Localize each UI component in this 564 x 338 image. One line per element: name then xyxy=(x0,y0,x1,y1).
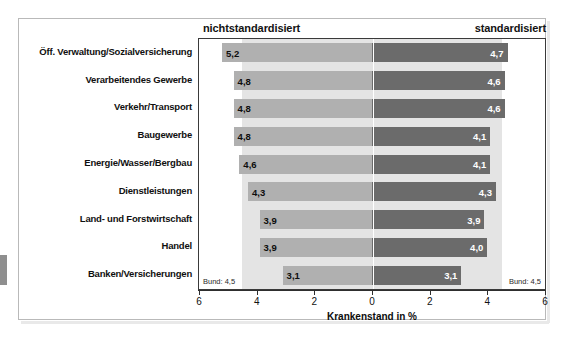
x-tick-label: 4 xyxy=(254,296,260,307)
bar-rows: 5,24,74,84,64,84,64,84,14,64,14,34,33,93… xyxy=(199,39,545,289)
bar-value-label: 3,9 xyxy=(264,214,277,225)
bar-nichtstandardisiert: 4,6 xyxy=(239,155,372,174)
bar-row: 3,13,1 xyxy=(199,266,545,285)
x-tick xyxy=(314,290,315,295)
bar-value-label: 4,6 xyxy=(243,159,256,170)
bar-row: 4,34,3 xyxy=(199,182,545,201)
bund-label-left: Bund: 4,5 xyxy=(203,277,235,286)
category-label: Verkehr/Transport xyxy=(114,101,192,112)
x-tick-label: 0 xyxy=(369,296,375,307)
bar-nichtstandardisiert: 4,3 xyxy=(248,182,372,201)
category-label: Land- und Forstwirtschaft xyxy=(80,213,192,224)
bar-value-label: 3,9 xyxy=(467,214,480,225)
bar-row: 3,93,9 xyxy=(199,210,545,229)
bar-row: 4,64,1 xyxy=(199,155,545,174)
bar-value-label: 4,6 xyxy=(487,75,500,86)
bar-standardisiert: 4,6 xyxy=(372,71,505,90)
x-tick xyxy=(257,290,258,295)
chart-figure: nichtstandardisiert standardisiert Öff. … xyxy=(0,0,564,338)
category-label: Handel xyxy=(162,240,192,251)
bar-value-label: 4,3 xyxy=(479,186,492,197)
bar-value-label: 4,7 xyxy=(490,47,503,58)
bar-value-label: 4,8 xyxy=(238,131,251,142)
bar-standardisiert: 4,0 xyxy=(372,238,487,257)
bar-value-label: 3,1 xyxy=(287,270,300,281)
bund-label-right: Bund: 4,5 xyxy=(509,277,541,286)
bar-standardisiert: 3,1 xyxy=(372,266,461,285)
category-label: Energie/Wasser/Bergbau xyxy=(84,157,192,168)
bar-value-label: 4,0 xyxy=(470,242,483,253)
bar-nichtstandardisiert: 3,9 xyxy=(260,210,372,229)
bar-value-label: 4,6 xyxy=(487,103,500,114)
bar-standardisiert: 4,7 xyxy=(372,43,508,62)
zero-axis-line xyxy=(373,39,374,289)
x-tick xyxy=(372,290,373,295)
category-label: Baugewerbe xyxy=(138,129,193,140)
bar-value-label: 4,8 xyxy=(238,103,251,114)
category-label: Dienstleistungen xyxy=(119,185,192,196)
bar-value-label: 3,1 xyxy=(444,270,457,281)
bar-value-label: 3,9 xyxy=(264,242,277,253)
category-label: Verarbeitendes Gewerbe xyxy=(86,74,193,85)
x-tick-label: 4 xyxy=(485,296,491,307)
card-shadow-right xyxy=(547,21,550,323)
bar-row: 3,94,0 xyxy=(199,238,545,257)
category-axis-labels: Öff. Verwaltung/SozialversicherungVerarb… xyxy=(20,38,196,288)
x-tick-label: 6 xyxy=(542,296,548,307)
bar-nichtstandardisiert: 4,8 xyxy=(234,71,372,90)
bar-standardisiert: 4,1 xyxy=(372,155,490,174)
bar-value-label: 4,1 xyxy=(473,159,486,170)
plot-area: 5,24,74,84,64,84,64,84,14,64,14,34,33,93… xyxy=(198,38,546,290)
x-tick-label: 2 xyxy=(427,296,433,307)
bar-nichtstandardisiert: 5,2 xyxy=(222,43,372,62)
bar-nichtstandardisiert: 4,8 xyxy=(234,127,372,146)
x-axis-title: Krankenstand in % xyxy=(327,311,417,322)
bar-nichtstandardisiert: 3,1 xyxy=(283,266,372,285)
bar-row: 4,84,6 xyxy=(199,71,545,90)
x-tick xyxy=(545,290,546,295)
x-tick xyxy=(199,290,200,295)
bar-standardisiert: 4,3 xyxy=(372,182,496,201)
x-tick-label: 6 xyxy=(196,296,202,307)
card-shadow-bottom xyxy=(21,321,549,324)
bar-standardisiert: 3,9 xyxy=(372,210,484,229)
bar-row: 4,84,1 xyxy=(199,127,545,146)
bar-standardisiert: 4,6 xyxy=(372,99,505,118)
x-tick xyxy=(487,290,488,295)
header-left-label: nichtstandardisiert xyxy=(203,22,300,34)
bar-value-label: 4,8 xyxy=(238,75,251,86)
bar-nichtstandardisiert: 4,8 xyxy=(234,99,372,118)
header-right-label: standardisiert xyxy=(475,22,546,34)
bar-standardisiert: 4,1 xyxy=(372,127,490,146)
x-tick-label: 2 xyxy=(312,296,318,307)
bar-value-label: 4,1 xyxy=(473,131,486,142)
category-label: Banken/Versicherungen xyxy=(88,268,192,279)
category-label: Öff. Verwaltung/Sozialversicherung xyxy=(39,46,192,57)
bar-value-label: 5,2 xyxy=(226,47,239,58)
bar-nichtstandardisiert: 3,9 xyxy=(260,238,372,257)
bar-value-label: 4,3 xyxy=(252,186,265,197)
x-tick xyxy=(430,290,431,295)
bar-row: 4,84,6 xyxy=(199,99,545,118)
bar-row: 5,24,7 xyxy=(199,43,545,62)
page-edge-artifact xyxy=(0,255,7,285)
